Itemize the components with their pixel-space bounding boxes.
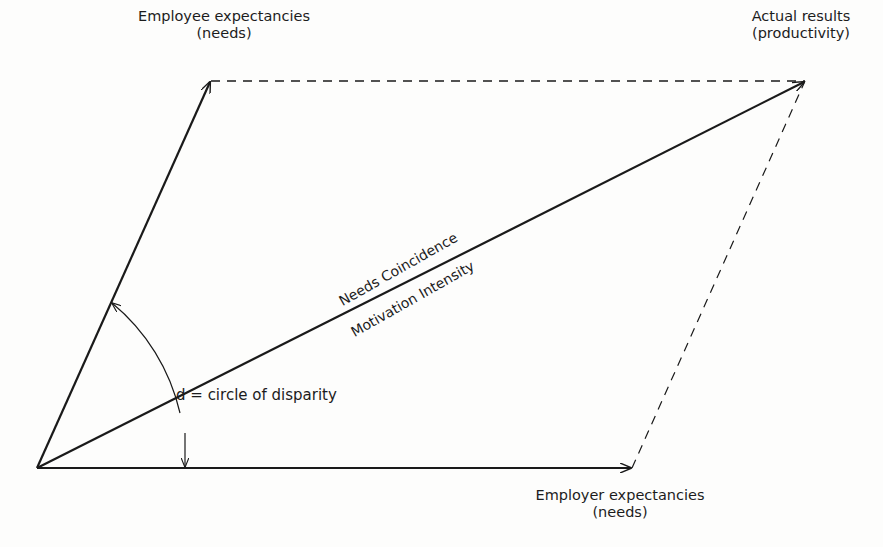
actual-results-label: Actual results (productivity) [716, 8, 883, 42]
dashed-line-employer-to-actual [632, 81, 805, 468]
employer-expectancies-label: Employer expectancies (needs) [520, 487, 720, 521]
disparity-arc [112, 303, 180, 413]
employer-expectancies-subtitle: (needs) [520, 504, 720, 521]
employee-expectancies-title: Employee expectancies [126, 8, 322, 25]
employee-expectancies-vector [37, 82, 210, 468]
circle-of-disparity-label: d = circle of disparity [176, 387, 337, 404]
employee-expectancies-subtitle: (needs) [126, 25, 322, 42]
employer-expectancies-title: Employer expectancies [520, 487, 720, 504]
actual-results-vector [37, 82, 804, 468]
vector-diagram: Employee expectancies (needs) Actual res… [0, 0, 883, 547]
employee-expectancies-label: Employee expectancies (needs) [126, 8, 322, 42]
actual-results-subtitle: (productivity) [716, 25, 883, 42]
actual-results-title: Actual results [716, 8, 883, 25]
